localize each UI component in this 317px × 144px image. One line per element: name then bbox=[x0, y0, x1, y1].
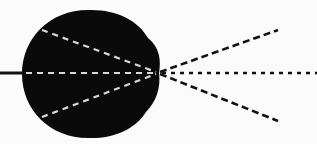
diagram-canvas: Black eye-like blob with dashed rays con… bbox=[0, 0, 317, 144]
outer-ray-upper bbox=[160, 30, 278, 72]
outer-rays bbox=[160, 30, 317, 121]
outer-ray-lower bbox=[160, 74, 278, 121]
eye-ray-diagram bbox=[0, 0, 317, 144]
